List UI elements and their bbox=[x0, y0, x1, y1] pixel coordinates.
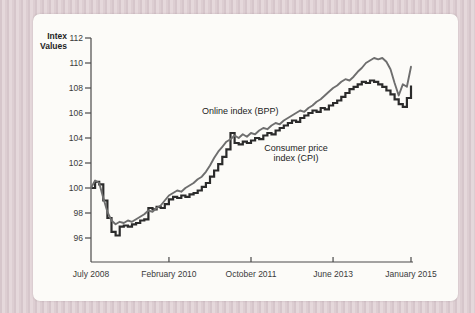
x-tick-label: October 2011 bbox=[209, 269, 293, 279]
y-tick-label: 112 bbox=[55, 33, 83, 43]
x-tick-label: January 2015 bbox=[369, 269, 453, 279]
page: { "palette": { "page_background": "#decf… bbox=[0, 0, 475, 313]
y-tick-label: 108 bbox=[55, 83, 83, 93]
x-tick-label: February 2010 bbox=[127, 269, 211, 279]
chart-plot bbox=[0, 0, 475, 313]
y-tick-label: 106 bbox=[55, 108, 83, 118]
axes bbox=[85, 38, 413, 262]
y-tick-label: 102 bbox=[55, 158, 83, 168]
y-tick-label: 100 bbox=[55, 183, 83, 193]
cpi-series-label: Consumer price index (CPI) bbox=[256, 144, 336, 163]
cpi-line bbox=[91, 81, 411, 236]
x-tick-label: June 2013 bbox=[291, 269, 375, 279]
y-tick-label: 104 bbox=[55, 133, 83, 143]
x-tick-label: July 2008 bbox=[49, 269, 133, 279]
y-tick-label: 96 bbox=[55, 233, 83, 243]
y-tick-label: 98 bbox=[55, 208, 83, 218]
y-tick-label: 110 bbox=[55, 58, 83, 68]
cpi-series-label-line2: index (CPI) bbox=[256, 154, 336, 164]
bpp-series-label: Online index (BPP) bbox=[202, 107, 279, 117]
